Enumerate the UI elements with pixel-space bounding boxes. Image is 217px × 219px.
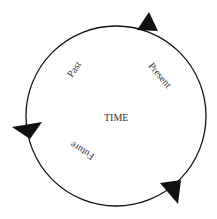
label-time: TIME — [104, 112, 128, 123]
arrow-left-icon — [12, 122, 42, 139]
label-future: Future — [68, 139, 96, 162]
label-past: Past — [65, 59, 84, 79]
time-cycle-diagram: Past Present Future TIME — [0, 0, 217, 219]
label-present: Present — [146, 60, 173, 90]
arrow-top-icon — [137, 12, 158, 31]
